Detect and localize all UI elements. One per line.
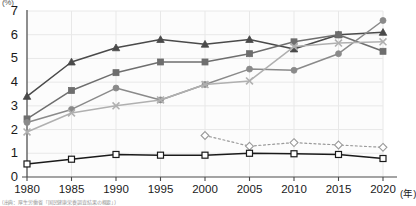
- marker-square: [69, 87, 75, 93]
- x-axis-unit-label: (年): [400, 186, 416, 200]
- marker-square: [202, 59, 208, 65]
- marker-circle: [24, 119, 30, 125]
- marker-square-open: [247, 150, 253, 156]
- marker-circle: [291, 67, 297, 73]
- marker-circle: [247, 66, 253, 72]
- marker-square-open: [24, 161, 30, 167]
- marker-square-open: [336, 151, 342, 157]
- marker-square-open: [202, 152, 208, 158]
- marker-square: [336, 32, 342, 38]
- marker-square: [247, 51, 253, 57]
- marker-square: [113, 70, 119, 76]
- marker-square-open: [158, 152, 164, 158]
- marker-circle: [113, 85, 119, 91]
- marker-circle: [336, 51, 342, 57]
- marker-square-open: [69, 156, 75, 162]
- source-footnote: (出典：厚生労働省「国民健康栄養調査結果の概要」): [2, 198, 116, 205]
- marker-square-open: [113, 151, 119, 157]
- marker-circle: [380, 17, 386, 23]
- marker-square: [158, 59, 164, 65]
- marker-square: [380, 48, 386, 54]
- marker-square-open: [380, 156, 386, 162]
- marker-square-open: [291, 151, 297, 157]
